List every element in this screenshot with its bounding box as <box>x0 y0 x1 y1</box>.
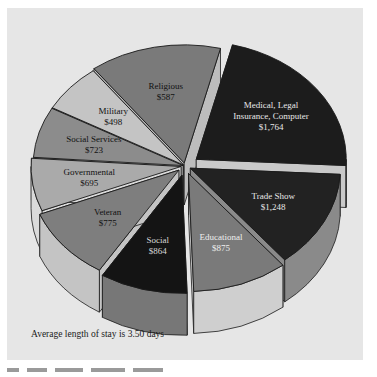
slice-label: Governmental <box>63 167 115 177</box>
slice-label: Insurance, Computer <box>233 111 308 121</box>
slice-label: Social <box>147 235 170 245</box>
slice-label: Social Services <box>66 134 122 144</box>
slice-label: $775 <box>99 218 118 228</box>
pie-chart: Religious$587Military$498Medical, LegalI… <box>0 0 377 377</box>
slice-label: Religious <box>148 81 183 91</box>
slice-label: $1,248 <box>261 202 286 212</box>
slice-label: $1,764 <box>259 122 284 132</box>
slice-label: $723 <box>85 145 104 155</box>
slice-label: Veteran <box>94 207 122 217</box>
slice-label: Trade Show <box>251 191 295 201</box>
slice-label: $875 <box>212 243 231 253</box>
figure-caption-cutoff <box>7 368 177 374</box>
slice-label: Educational <box>200 232 243 242</box>
slice-label: $498 <box>104 117 123 127</box>
slice-label: Military <box>99 106 129 116</box>
chart-annotation: Average length of stay is 3.50 days <box>31 329 164 339</box>
slice-label: $587 <box>157 92 176 102</box>
slice-label: $695 <box>80 178 99 188</box>
slice-label: $864 <box>149 246 168 256</box>
slice-label: Medical, Legal <box>244 100 299 110</box>
